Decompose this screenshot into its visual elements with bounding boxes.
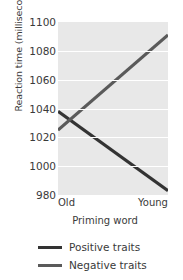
gridline: [58, 51, 168, 52]
gridline: [58, 80, 168, 81]
gridline: [58, 166, 168, 167]
series-line: [58, 111, 168, 190]
legend-item-label: Positive traits: [69, 241, 140, 253]
x-axis-tick-young: Young: [138, 197, 168, 208]
x-axis-title: Priming word: [30, 215, 180, 226]
y-axis-tick-label: 1060: [20, 75, 56, 86]
y-axis-tick-label: 1020: [20, 132, 56, 143]
y-axis-tick-label: 1000: [20, 161, 56, 172]
y-axis-tick-label: 1040: [20, 104, 56, 115]
plot-area: [58, 22, 168, 195]
y-axis-tick-label: 1080: [20, 46, 56, 57]
legend-item-label: Negative traits: [69, 259, 147, 271]
series-line: [58, 35, 168, 130]
gridline: [58, 137, 168, 138]
chart-legend: Positive traitsNegative traits: [38, 238, 183, 274]
y-axis-tick-label: 980: [20, 190, 56, 201]
legend-item[interactable]: Negative traits: [38, 256, 183, 274]
legend-item[interactable]: Positive traits: [38, 238, 183, 256]
legend-line-icon: [38, 246, 62, 249]
line-chart: Reaction time (milliseconds) 11001080106…: [0, 0, 183, 280]
x-axis-tick-old: Old: [58, 197, 75, 208]
legend-line-icon: [38, 264, 62, 267]
y-axis-tick-label: 1100: [20, 17, 56, 28]
gridline: [58, 109, 168, 110]
